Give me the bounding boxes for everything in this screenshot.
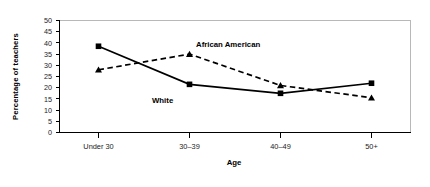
y-tick-label: 25 [44, 72, 52, 81]
y-axis-title: Percentage of teachers [11, 33, 20, 120]
x-tick-label-30-39: 30–39 [179, 142, 200, 151]
chart-container: 50 45 40 35 30 25 20 15 10 5 0 Under 30 … [0, 0, 430, 187]
y-tick-label: 40 [44, 39, 52, 48]
y-tick-label: 0 [48, 128, 52, 137]
series-label-white: White [152, 96, 174, 105]
data-point-marker-square [187, 82, 193, 88]
x-tick-label-40-49: 40–49 [270, 142, 291, 151]
y-tick-label: 15 [44, 95, 52, 104]
y-tick-label: 50 [44, 16, 52, 25]
y-tick-label: 20 [44, 83, 52, 92]
y-tick-label: 35 [44, 50, 52, 59]
data-point-marker-square [369, 80, 375, 86]
x-axis-title: Age [227, 158, 242, 167]
y-tick-label: 45 [44, 27, 52, 36]
x-tick-label-under-30: Under 30 [83, 142, 113, 151]
y-tick-label: 10 [44, 106, 52, 115]
data-point-marker-square [96, 43, 102, 49]
chart-background [0, 0, 430, 187]
data-point-marker-square [278, 91, 284, 97]
line-chart: 50 45 40 35 30 25 20 15 10 5 0 Under 30 … [0, 0, 430, 187]
y-tick-label: 5 [48, 117, 52, 126]
y-tick-label: 30 [44, 61, 52, 70]
x-tick-label-50-plus: 50+ [365, 142, 378, 151]
series-label-african-american: African American [196, 40, 261, 49]
